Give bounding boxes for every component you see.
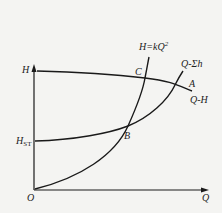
q-sum-h-curve: [35, 71, 183, 141]
q-h-curve: [37, 71, 192, 91]
h-static-label: HST: [16, 136, 31, 146]
point-c-label: C: [135, 67, 142, 77]
origin-label: O: [27, 193, 34, 203]
diagram-canvas: H HST O Q H=kQ2 C Q-Σh A Q-H B: [0, 0, 222, 213]
h-kq2-prefix: H=kQ: [139, 41, 165, 52]
curves-svg: [0, 0, 222, 213]
y-axis-arrow-icon: [32, 64, 37, 72]
h-kq2-label: H=kQ2: [139, 42, 168, 52]
h-kq2-exponent: 2: [165, 40, 169, 48]
x-axis-label: Q: [202, 193, 209, 203]
point-b-label: B: [124, 131, 130, 141]
h-static-sub: ST: [23, 140, 31, 148]
point-a-label: A: [189, 79, 195, 89]
y-axis-label: H: [22, 65, 29, 75]
q-sum-h-label: Q-Σh: [181, 59, 203, 69]
q-h-label: Q-H: [190, 95, 208, 105]
